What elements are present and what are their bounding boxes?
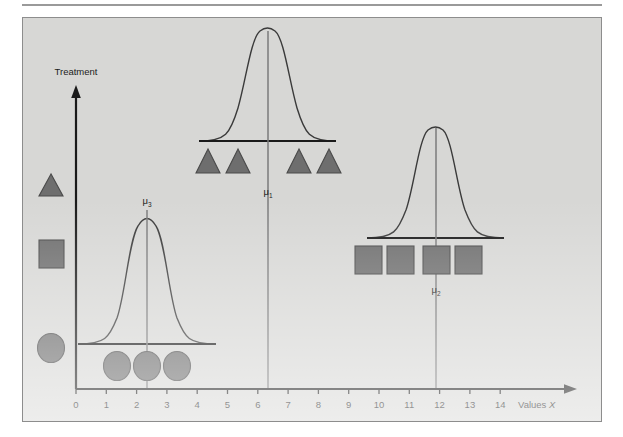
observation-square bbox=[423, 246, 450, 274]
y-axis-arrowhead bbox=[71, 85, 81, 98]
x-axis-arrowhead bbox=[564, 384, 577, 394]
observation-square bbox=[455, 246, 482, 274]
x-axis-label-variable: X bbox=[548, 399, 556, 410]
observation-triangle bbox=[226, 149, 250, 173]
figure-stage: μ3 μ1 μ2 Treatment bbox=[0, 0, 623, 437]
figure-panel: μ3 μ1 μ2 Treatment bbox=[22, 17, 602, 422]
x-axis-tick-label: 14 bbox=[495, 399, 506, 410]
observation-triangle bbox=[196, 149, 220, 173]
square-legend-symbol bbox=[39, 240, 64, 268]
x-axis-tick-label: 9 bbox=[346, 399, 351, 410]
x-axis-tick-label: 4 bbox=[195, 399, 200, 410]
x-axis-tick-label: 8 bbox=[316, 399, 321, 410]
x-axis-tick-label: 11 bbox=[404, 399, 414, 410]
mean-label-treatment-3: μ3 bbox=[142, 195, 151, 208]
x-axis-tick-label: 12 bbox=[434, 399, 445, 410]
x-axis-label: Values X bbox=[518, 399, 556, 410]
observation-circle bbox=[164, 352, 191, 381]
x-axis-tick-label: 1 bbox=[104, 399, 109, 410]
observation-circle bbox=[104, 352, 131, 381]
x-axis-tick-label: 0 bbox=[73, 399, 78, 410]
x-axis-tick-label: 13 bbox=[465, 399, 476, 410]
y-axis-label: Treatment bbox=[55, 66, 98, 77]
x-axis-tick-label: 2 bbox=[134, 399, 139, 410]
top-divider-rule bbox=[22, 4, 602, 6]
observation-circle bbox=[134, 352, 161, 381]
x-axis-tick-label: 5 bbox=[225, 399, 230, 410]
x-axis-ticks: 01234567891011121314 bbox=[73, 389, 505, 410]
circle-legend-symbol bbox=[38, 334, 65, 363]
mean-label-treatment-2: μ2 bbox=[431, 284, 440, 297]
x-axis-label-prefix: Values bbox=[518, 399, 549, 410]
mean-label-treatment-1: μ1 bbox=[263, 186, 272, 199]
x-axis-tick-label: 10 bbox=[374, 399, 385, 410]
triangle-legend-symbol bbox=[39, 174, 63, 196]
x-axis-tick-label: 7 bbox=[285, 399, 290, 410]
observation-triangle bbox=[287, 149, 311, 173]
observation-square bbox=[387, 246, 414, 274]
observation-triangle bbox=[317, 149, 341, 173]
x-axis-tick-label: 3 bbox=[164, 399, 169, 410]
distribution-plot: μ3 μ1 μ2 Treatment bbox=[23, 18, 602, 422]
observation-square bbox=[355, 246, 382, 274]
x-axis-tick-label: 6 bbox=[255, 399, 260, 410]
